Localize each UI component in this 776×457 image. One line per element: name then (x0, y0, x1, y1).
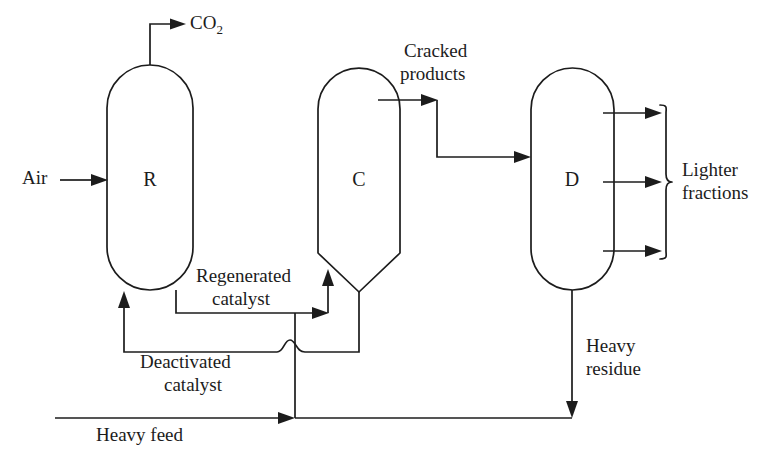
regenerated-catalyst-arrowhead-horizontal (312, 307, 329, 319)
co2-outlet-arrowhead (170, 19, 186, 30)
lighter-fraction-arrowhead-bottom (645, 245, 662, 257)
distillation-vessel-letter: D (565, 168, 579, 190)
regenerated-catalyst-label-line2: catalyst (212, 288, 271, 309)
cracked-products-riser (437, 100, 514, 157)
co2-outlet-line (150, 24, 170, 65)
lighter-fraction-arrowhead-top (645, 107, 662, 119)
regenerated-catalyst-arrowhead-up (322, 269, 334, 286)
deactivated-catalyst-label-line1: Deactivated (140, 351, 231, 372)
heavy-feed-label: Heavy feed (96, 424, 184, 445)
co2-label: CO2 (190, 12, 223, 37)
lighter-fraction-arrowhead-middle (645, 176, 662, 188)
deactivated-catalyst-label-line2: catalyst (164, 374, 223, 395)
air-label: Air (22, 167, 48, 188)
heavy-residue-label-line1: Heavy (586, 335, 636, 356)
flow-diagram-canvas: R C D CO2 Air Cracked products Ligh (0, 0, 776, 457)
lighter-fractions-label-line1: Lighter (682, 159, 739, 180)
cracked-products-label-line1: Cracked (404, 40, 468, 61)
cracker-vessel-letter: C (352, 168, 365, 190)
heavy-residue-arrowhead (566, 401, 578, 418)
cracked-products-label-line2: products (400, 63, 465, 84)
deactivated-catalyst-line-jump (277, 340, 305, 352)
deactivated-catalyst-arrowhead-up (118, 291, 130, 308)
heavy-residue-label-line2: residue (586, 358, 641, 379)
cracked-products-arrowhead-upper (421, 94, 438, 106)
deactivated-catalyst-riser-right (305, 292, 359, 352)
co2-subscript: 2 (216, 22, 223, 37)
lighter-fractions-label-line2: fractions (682, 182, 748, 203)
deactivated-catalyst-line-left (124, 308, 277, 352)
process-flow-diagram: R C D CO2 Air Cracked products Ligh (0, 0, 776, 457)
air-inlet-arrowhead (91, 174, 108, 186)
heavy-feed-arrowhead (278, 412, 295, 424)
cracked-products-arrowhead-lower (514, 151, 531, 163)
regenerator-vessel-letter: R (143, 168, 157, 190)
regenerated-catalyst-label-line1: Regenerated (196, 265, 291, 286)
